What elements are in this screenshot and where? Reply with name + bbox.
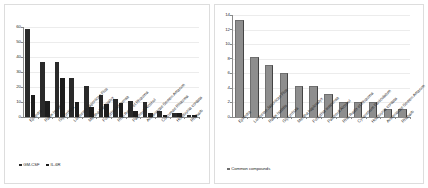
gridline [23,87,199,88]
chart-legend: Common compounds [227,167,270,171]
gridline [23,42,199,43]
legend-item[interactable]: IL-6R [46,163,60,167]
y-axis-tick-label: 0 [18,115,20,119]
x-tick-mark [199,117,200,119]
gridline [23,57,199,58]
figure-canvas: 0102030405060EphedraRadix IsatidisGlycyr… [0,0,428,188]
chart-legend: GM-CSFIL-6R [19,163,61,167]
y-axis-tick-label: 12 [225,27,230,31]
x-tick-mark [111,117,112,119]
legend-swatch-icon [227,168,230,171]
y-axis-tick-label: 2 [227,100,229,104]
gridline [232,59,410,60]
y-axis-line [232,15,233,117]
gridline [232,88,410,89]
gridline [232,44,410,45]
y-axis-tick-label: 6 [227,71,229,75]
plot-area-right: 02468101214EphedraLonicerae Japonicae Fl… [215,5,423,183]
gridline [23,72,199,73]
plot-area-left: 0102030405060EphedraRadix IsatidisGlycyr… [5,5,209,183]
bar [250,57,259,117]
y-axis-tick-label: 10 [16,100,21,104]
y-axis-tick-label: 14 [225,13,230,17]
legend-item[interactable]: GM-CSF [19,163,39,167]
gridline [232,15,410,16]
y-axis-tick-label: 40 [16,55,21,59]
legend-item[interactable]: Common compounds [227,167,270,171]
y-axis-line [23,27,24,117]
gridline [23,27,199,28]
chart-panel-right: 02468101214EphedraLonicerae Japonicae Fl… [214,4,424,184]
x-tick-mark [155,117,156,119]
legend-label: Common compounds [231,167,270,171]
y-axis-tick-label: 60 [16,25,21,29]
legend-label: GM-CSF [23,163,39,167]
bar [235,20,244,117]
gridline [232,73,410,74]
chart-panel-left: 0102030405060EphedraRadix IsatidisGlycyr… [4,4,210,184]
legend-swatch-icon [46,164,49,167]
legend-label: IL-6R [51,163,61,167]
y-axis-tick-label: 20 [16,85,21,89]
x-axis-category-label: Rhubarb [190,109,204,123]
y-axis-tick-label: 8 [227,57,229,61]
bar [25,29,30,118]
y-axis-tick-label: 4 [227,86,229,90]
y-axis-tick-label: 50 [16,40,21,44]
x-tick-mark [67,117,68,119]
y-axis-tick-label: 0 [227,115,229,119]
gridline [232,30,410,31]
y-axis-tick-label: 30 [16,70,21,74]
y-axis-tick-label: 10 [225,42,230,46]
legend-swatch-icon [19,164,22,167]
bar [40,62,45,118]
